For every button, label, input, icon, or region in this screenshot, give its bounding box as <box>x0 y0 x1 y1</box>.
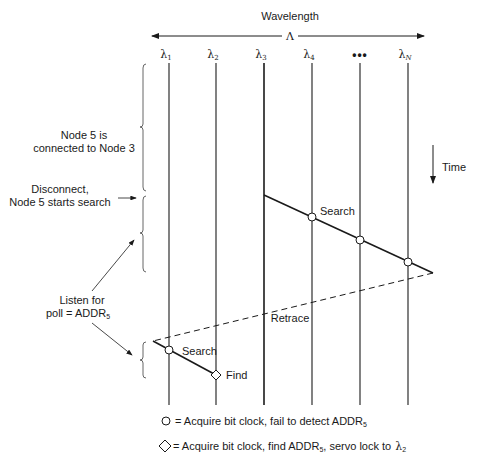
wavelength-title: Wavelength <box>261 10 319 22</box>
brace-search-bottom <box>140 342 146 378</box>
find-label: Find <box>226 369 247 381</box>
channel-label-2: λ2 <box>207 48 218 62</box>
legend-diamond-icon <box>159 440 171 452</box>
channel-label-3: λ3 <box>255 48 266 62</box>
fail-circle-icon <box>356 236 364 244</box>
brace-search-top <box>140 196 146 272</box>
wavelength-search-diagram: Wavelength Λ λ1 λ2 λ3 λ4 ••• λN Time Nod… <box>0 0 479 457</box>
disconnect-text-line2: Node 5 starts search <box>9 196 111 208</box>
listen-text-line2: poll = ADDR5 <box>46 307 110 320</box>
listen-arrow-up <box>92 240 134 291</box>
brace-connected <box>140 64 146 191</box>
disconnect-text-line1: Disconnect, <box>31 183 88 195</box>
time-label: Time <box>442 161 466 173</box>
connected-text-line1: Node 5 is <box>61 129 108 141</box>
time-braces <box>140 64 146 378</box>
retrace-path <box>153 273 433 341</box>
channel-label-4: λ4 <box>303 48 315 62</box>
fail-circle-icon <box>404 258 412 266</box>
channel-label-1: λ1 <box>160 48 171 62</box>
legend: = Acquire bit clock, fail to detect ADDR… <box>159 415 406 453</box>
channel-labels: λ1 λ2 λ3 λ4 ••• λN <box>160 48 412 62</box>
fail-circle-icon <box>165 346 173 354</box>
search-label-top: Search <box>320 205 355 217</box>
legend-circle-icon <box>162 417 170 425</box>
lambda-capital-symbol: Λ <box>285 30 295 43</box>
channel-label-ellipsis: ••• <box>352 48 368 62</box>
search-label-bottom: Search <box>182 345 217 357</box>
legend-diamond-text: = Acquire bit clock, find ADDR5, servo l… <box>173 440 406 453</box>
channel-label-n: λN <box>398 48 412 62</box>
listen-arrow-down <box>92 323 132 355</box>
fail-circle-icon <box>308 213 316 221</box>
listen-text-line1: Listen for <box>59 294 105 306</box>
retrace-label: Retrace <box>271 312 310 324</box>
connected-text-line2: connected to Node 3 <box>33 142 135 154</box>
find-diamond-icon <box>211 370 221 380</box>
legend-circle-text: = Acquire bit clock, fail to detect ADDR… <box>175 415 367 428</box>
